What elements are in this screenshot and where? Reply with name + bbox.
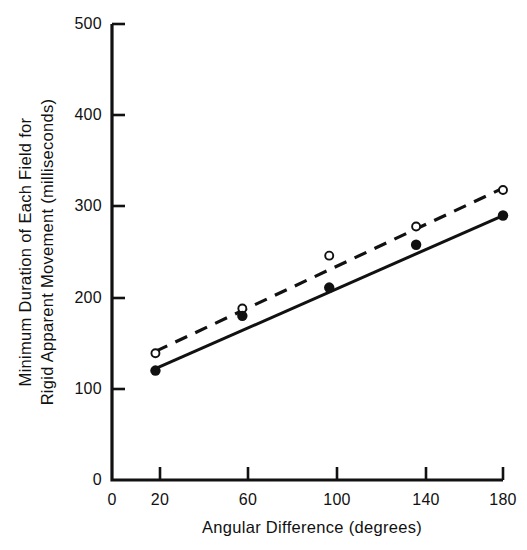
data-point-open-circle-20 — [151, 349, 159, 357]
data-point-filled-circle-100 — [324, 282, 334, 292]
plot-area — [0, 0, 527, 550]
data-point-open-circle-100 — [325, 252, 333, 260]
figure-container: Minimum Duration of Each Field for Rigid… — [0, 0, 527, 550]
y-axis-ticks — [112, 24, 125, 389]
data-point-filled-circle-60 — [237, 311, 247, 321]
dashed-fit-line — [155, 188, 503, 351]
axis-lines — [112, 24, 503, 480]
data-point-open-circle-140 — [412, 222, 420, 230]
data-point-filled-circle-180 — [498, 210, 508, 220]
series-layer — [150, 186, 508, 376]
x-axis-ticks — [160, 467, 503, 480]
data-point-filled-circle-20 — [150, 365, 160, 375]
data-point-filled-circle-140 — [411, 240, 421, 250]
data-point-open-circle-180 — [499, 186, 507, 194]
